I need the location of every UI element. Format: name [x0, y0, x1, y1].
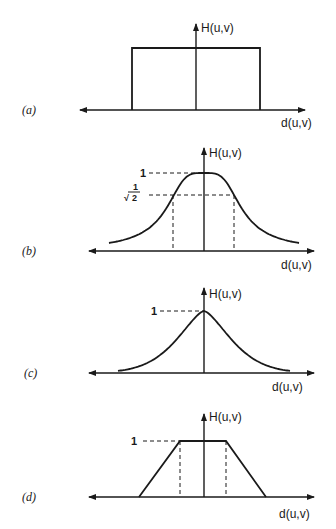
y-axis-label: H(u,v) — [209, 287, 242, 301]
panel-b: (b) 1 1 √ 2 H(u,v) d(u,v) — [22, 146, 314, 272]
x-axis-label: d(u,v) — [279, 507, 310, 521]
x-axis-label: d(u,v) — [281, 116, 312, 130]
y-axis-label: H(u,v) — [201, 21, 234, 35]
half-power-numerator: 1 — [133, 182, 138, 192]
x-axis-label: d(u,v) — [272, 380, 303, 394]
panel-label-b: (b) — [22, 244, 36, 258]
trapezoidal-curve — [139, 441, 266, 497]
panel-d: (d) 1 H(u,v) d(u,v) — [22, 410, 314, 521]
panel-label-d: (d) — [22, 490, 36, 504]
peak-tick-label: 1 — [131, 435, 137, 447]
panel-label-c: (c) — [24, 366, 37, 380]
filter-transfer-functions-figure: (a) H(u,v) d(u,v) (b) 1 1 √ 2 H(u,v) d(u… — [0, 0, 336, 529]
x-axis-label: d(u,v) — [281, 258, 312, 272]
half-power-denominator: 2 — [132, 193, 137, 203]
y-axis-label: H(u,v) — [209, 146, 242, 160]
sqrt-symbol: √ — [124, 193, 129, 203]
y-axis-label: H(u,v) — [209, 410, 242, 424]
peak-tick-label: 1 — [140, 167, 146, 179]
panel-a: (a) H(u,v) d(u,v) — [22, 21, 312, 130]
peak-tick-label: 1 — [151, 305, 157, 317]
panel-c: (c) 1 H(u,v) d(u,v) — [24, 287, 314, 394]
panel-label-a: (a) — [22, 103, 36, 117]
